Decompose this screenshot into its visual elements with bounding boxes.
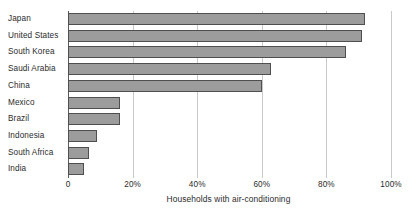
category-label-saudi-arabia: Saudi Arabia (8, 61, 56, 78)
x-tick-0: 0 (66, 180, 71, 189)
bar-row (68, 78, 391, 95)
bars-layer (68, 11, 391, 178)
bar-united-states (68, 30, 362, 42)
bar-row (68, 161, 391, 178)
category-label-south-korea: South Korea (8, 44, 55, 61)
plot-area (68, 11, 391, 178)
x-tick-20%: 20% (124, 180, 141, 189)
bar-south-africa (68, 147, 89, 159)
category-label-mexico: Mexico (8, 95, 35, 112)
bar-south-korea (68, 46, 346, 58)
bar-row (68, 11, 391, 28)
category-label-brazil: Brazil (8, 111, 29, 128)
x-tick-40%: 40% (189, 180, 206, 189)
x-tick-80%: 80% (318, 180, 335, 189)
bar-row (68, 61, 391, 78)
category-label-china: China (8, 78, 30, 95)
bar-japan (68, 13, 365, 25)
bar-saudi-arabia (68, 63, 271, 75)
bar-india (68, 163, 84, 175)
category-label-united-states: United States (8, 28, 58, 45)
bar-row (68, 95, 391, 112)
bar-row (68, 111, 391, 128)
bar-brazil (68, 113, 120, 125)
category-axis-labels: JapanUnited StatesSouth KoreaSaudi Arabi… (0, 11, 64, 178)
x-axis-title: Households with air-conditioning (0, 194, 417, 204)
x-tick-60%: 60% (253, 180, 270, 189)
bar-row (68, 44, 391, 61)
category-label-south-africa: South Africa (8, 145, 53, 162)
bar-row (68, 145, 391, 162)
bar-row (68, 28, 391, 45)
bar-chart: JapanUnited StatesSouth KoreaSaudi Arabi… (0, 0, 417, 217)
category-label-indonesia: Indonesia (8, 128, 44, 145)
bar-china (68, 80, 262, 92)
x-axis-title-text: Households with air-conditioning (127, 194, 291, 204)
x-axis-tick-labels: 020%40%60%80%100% (68, 178, 391, 192)
bar-indonesia (68, 130, 97, 142)
category-label-japan: Japan (8, 11, 31, 28)
bar-mexico (68, 97, 120, 109)
gridline-100% (391, 11, 392, 178)
x-tick-100%: 100% (380, 180, 401, 189)
category-label-india: India (8, 161, 26, 178)
bar-row (68, 128, 391, 145)
